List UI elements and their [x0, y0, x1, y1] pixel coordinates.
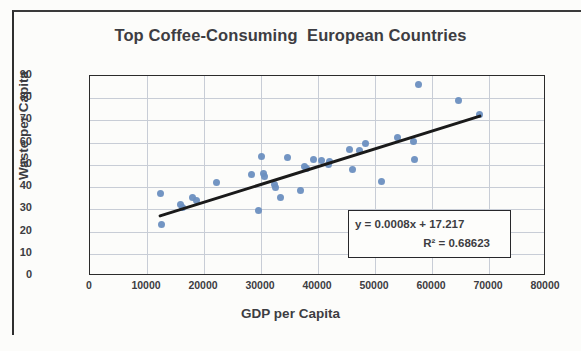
horizontal-gridline [90, 165, 544, 166]
data-point [362, 140, 369, 147]
data-point [284, 154, 291, 161]
y-tick-label: 90 [0, 68, 32, 80]
chart-title: Top Coffee-Consuming European Countries [0, 26, 581, 45]
horizontal-gridline [90, 98, 544, 99]
vertical-gridline [318, 76, 319, 274]
y-tick-label: 30 [0, 201, 32, 213]
horizontal-gridline [90, 187, 544, 188]
y-tick-label: 50 [0, 157, 32, 169]
y-tick-label: 0 [0, 268, 32, 280]
y-tick-label: 40 [0, 179, 32, 191]
r-squared-text: R² = 0.68623 [355, 234, 502, 253]
data-point [346, 146, 353, 153]
data-point [157, 190, 164, 197]
y-tick-label: 80 [0, 90, 32, 102]
trendline-equation-text: y = 0.0008x + 17.217 [355, 215, 502, 234]
data-point [455, 97, 462, 104]
data-point [349, 166, 356, 173]
data-point [394, 134, 401, 141]
vertical-gridline [147, 76, 148, 274]
data-point [255, 207, 262, 214]
x-tick-label: 80000 [510, 279, 580, 291]
data-point [303, 165, 310, 172]
data-point [410, 138, 417, 145]
data-point [378, 178, 385, 185]
vertical-gridline [204, 76, 205, 274]
y-tick-label: 20 [0, 224, 32, 236]
scanned-page: Top Coffee-Consuming European Countries … [0, 0, 581, 351]
trendline-equation-box: y = 0.0008x + 17.217 R² = 0.68623 [348, 210, 511, 258]
scatter-chart: Top Coffee-Consuming European Countries … [0, 0, 581, 351]
data-point [213, 179, 220, 186]
data-point [258, 153, 265, 160]
data-point [356, 147, 363, 154]
data-point [297, 187, 304, 194]
data-point [411, 156, 418, 163]
data-point [158, 221, 165, 228]
data-point [261, 173, 268, 180]
y-tick-label: 10 [0, 246, 32, 258]
data-point [310, 156, 317, 163]
data-point [193, 197, 200, 204]
y-tick-label: 70 [0, 112, 32, 124]
data-point [326, 158, 333, 165]
horizontal-gridline [90, 143, 544, 144]
data-point [415, 81, 422, 88]
data-point [248, 171, 255, 178]
data-point [476, 111, 483, 118]
data-point [277, 194, 284, 201]
x-axis-label: GDP per Capita [0, 306, 581, 321]
y-tick-label: 60 [0, 135, 32, 147]
horizontal-gridline [90, 120, 544, 121]
data-point [318, 157, 325, 164]
data-point [272, 184, 279, 191]
